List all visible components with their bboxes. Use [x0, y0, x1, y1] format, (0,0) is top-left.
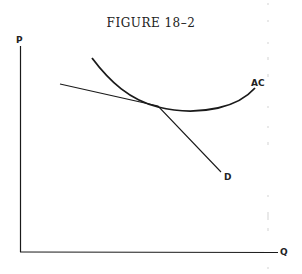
- x-axis: [20, 252, 278, 253]
- ac-curve-label: AC: [251, 78, 265, 88]
- y-axis-label: P: [16, 35, 23, 45]
- figure-18-2: FIGURE 18–2 P Q AC D: [0, 0, 302, 274]
- diagram-canvas: [0, 0, 302, 274]
- demand-curve-label: D: [224, 172, 231, 182]
- demand-curve: [60, 84, 221, 172]
- average-cost-curve: [92, 58, 255, 111]
- x-axis-label: Q: [280, 247, 288, 257]
